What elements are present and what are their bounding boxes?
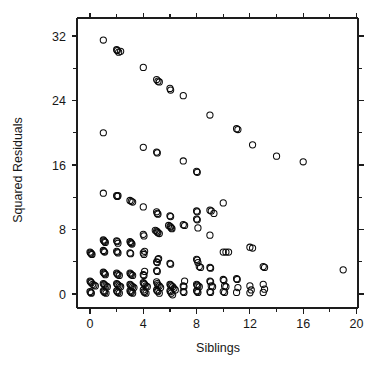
- data-point: [180, 93, 186, 99]
- scatter-plot-figure: 04812162008162432 Siblings Squared Resid…: [0, 0, 371, 372]
- x-tick-label: 8: [193, 317, 200, 331]
- data-point: [300, 159, 306, 165]
- x-tick-label: 20: [350, 317, 364, 331]
- data-points-layer: [87, 37, 346, 298]
- plot-canvas: 04812162008162432 Siblings Squared Resid…: [0, 0, 371, 372]
- axis-ticks: [72, 13, 364, 314]
- data-point: [249, 142, 255, 148]
- data-point: [140, 204, 146, 210]
- data-point: [340, 267, 346, 273]
- data-point: [180, 158, 186, 164]
- data-point: [220, 200, 226, 206]
- axis-box: [77, 18, 358, 308]
- x-tick-label: 12: [243, 317, 257, 331]
- y-tick-label: 24: [52, 94, 66, 108]
- x-tick-label: 0: [87, 317, 94, 331]
- x-tick-label: 4: [140, 317, 147, 331]
- y-tick-label: 0: [59, 288, 66, 302]
- data-point: [273, 153, 279, 159]
- y-tick-label: 32: [52, 30, 66, 44]
- y-tick-label: 8: [59, 223, 66, 237]
- x-tick-label: 16: [296, 317, 310, 331]
- data-point: [195, 225, 201, 231]
- data-point: [100, 190, 106, 196]
- y-axis-title: Squared Residuals: [11, 117, 25, 223]
- data-point: [100, 130, 106, 136]
- data-point: [247, 283, 253, 289]
- data-point: [100, 37, 106, 43]
- data-point: [140, 64, 146, 70]
- data-point: [207, 112, 213, 118]
- x-axis-title: Siblings: [196, 341, 240, 355]
- data-point: [140, 144, 146, 150]
- y-tick-label: 16: [52, 159, 66, 173]
- data-point: [207, 232, 213, 238]
